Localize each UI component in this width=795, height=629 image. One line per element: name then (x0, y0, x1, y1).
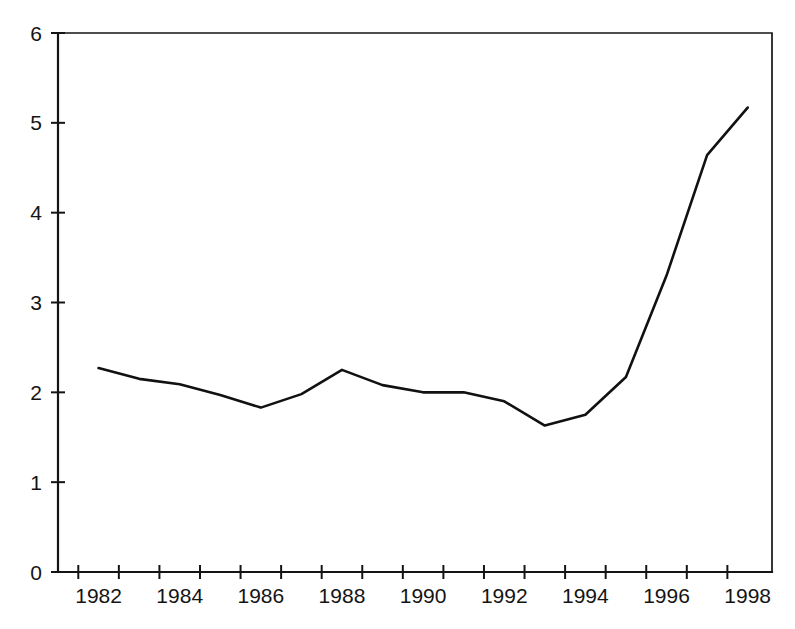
y-tick-label: 1 (30, 471, 42, 494)
chart-plot-area: 0123456 19821984198619881990199219941996… (0, 0, 795, 629)
x-tick-label: 1994 (562, 584, 609, 607)
x-tick-label: 1990 (400, 584, 447, 607)
x-tick-label: 1986 (237, 584, 284, 607)
plot-frame (58, 33, 772, 572)
x-tick-label: 1998 (724, 584, 771, 607)
x-tick-label: 1982 (75, 584, 122, 607)
x-tick-label: 1988 (319, 584, 366, 607)
x-tick-label: 1996 (643, 584, 690, 607)
data-series-group (99, 108, 748, 426)
x-tick-label: 1992 (481, 584, 528, 607)
x-tick-label: 1984 (156, 584, 203, 607)
y-tick-label: 4 (30, 201, 42, 224)
line-chart: 0123456 19821984198619881990199219941996… (0, 0, 795, 629)
y-tick-label: 3 (30, 291, 42, 314)
y-tick-label: 6 (30, 22, 42, 45)
y-tick-label: 0 (30, 561, 42, 584)
x-axis-tick-labels: 198219841986198819901992199419961998 (75, 584, 771, 607)
y-axis-tick-labels: 0123456 (30, 22, 42, 584)
data-series-line (99, 108, 748, 426)
y-tick-label: 2 (30, 381, 42, 404)
y-tick-label: 5 (30, 111, 42, 134)
